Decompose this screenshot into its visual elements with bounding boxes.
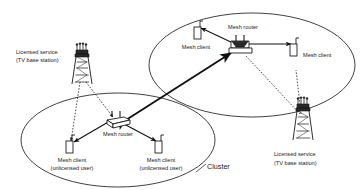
mesh-client-unlicensed-2-label-line2: (unlicensed user) bbox=[140, 165, 183, 171]
mesh-client-icon bbox=[290, 38, 299, 56]
link-router-to-router bbox=[126, 53, 231, 120]
licensed-service-left-label-line1: Licensed service bbox=[16, 49, 58, 55]
mesh-client-right-inner-label: Mesh client bbox=[182, 44, 211, 50]
mesh-client-icon bbox=[155, 135, 164, 153]
licensed-service-right-label-line1: Licensed service bbox=[274, 151, 316, 157]
link-tower-right-to-router bbox=[246, 56, 300, 114]
mesh-client-unlicensed-2-label-line1: Mesh client bbox=[147, 157, 176, 163]
link-tower-left-to-client bbox=[71, 82, 80, 141]
mesh-client-right-outer-label: Mesh client bbox=[303, 52, 332, 58]
link-tower-left-to-router bbox=[86, 82, 113, 117]
network-topology-diagram: Licensed service (TV base station) Licen… bbox=[0, 0, 363, 190]
mesh-router-icon bbox=[229, 35, 252, 53]
mesh-client-icon bbox=[66, 135, 75, 153]
mesh-client-unlicensed-1-label-line1: Mesh client bbox=[58, 157, 87, 163]
tv-tower-icon bbox=[293, 96, 313, 140]
licensed-service-right-label-line2: (TV base station) bbox=[274, 160, 317, 166]
cluster-leader-line bbox=[196, 164, 206, 172]
tv-tower-icon bbox=[72, 42, 92, 84]
cluster-boundary-left bbox=[21, 93, 215, 187]
mesh-client-icon bbox=[194, 21, 203, 39]
mesh-router-right-label: Mesh router bbox=[228, 24, 258, 30]
mesh-client-unlicensed-1-label-line2: (unlicensed user) bbox=[51, 165, 94, 171]
cluster-label: Cluster bbox=[207, 162, 230, 171]
licensed-service-left-label-line2: (TV base station) bbox=[16, 57, 59, 63]
mesh-router-left-label: Mesh router bbox=[103, 131, 133, 137]
